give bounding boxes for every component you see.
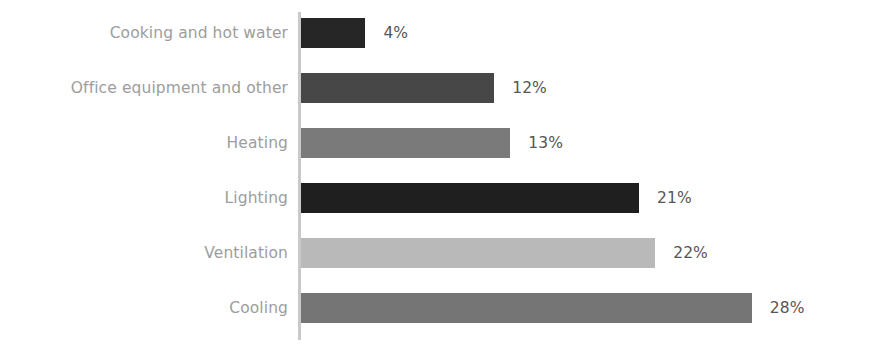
bar [301, 293, 752, 323]
bar-value-label: 12% [512, 73, 547, 103]
bar-row: Office equipment and other12% [0, 73, 869, 103]
bar-chart: Cooking and hot water4%Office equipment … [0, 0, 869, 355]
bar-row: Lighting21% [0, 183, 869, 213]
bar [301, 238, 655, 268]
bar-value-label: 21% [657, 183, 692, 213]
bar-value-label: 4% [383, 18, 408, 48]
category-label: Lighting [0, 183, 288, 213]
bar-rows-container: Cooking and hot water4%Office equipment … [0, 0, 869, 355]
bar [301, 128, 510, 158]
category-label: Cooling [0, 293, 288, 323]
category-label: Office equipment and other [0, 73, 288, 103]
bar [301, 73, 494, 103]
bar-value-label: 22% [673, 238, 708, 268]
bar-value-label: 13% [528, 128, 563, 158]
bar [301, 183, 639, 213]
bar-row: Ventilation22% [0, 238, 869, 268]
category-label: Ventilation [0, 238, 288, 268]
bar-value-label: 28% [770, 293, 805, 323]
category-label: Cooking and hot water [0, 18, 288, 48]
bar [301, 18, 365, 48]
category-label: Heating [0, 128, 288, 158]
bar-row: Cooking and hot water4% [0, 18, 869, 48]
bar-row: Cooling28% [0, 293, 869, 323]
bar-row: Heating13% [0, 128, 869, 158]
